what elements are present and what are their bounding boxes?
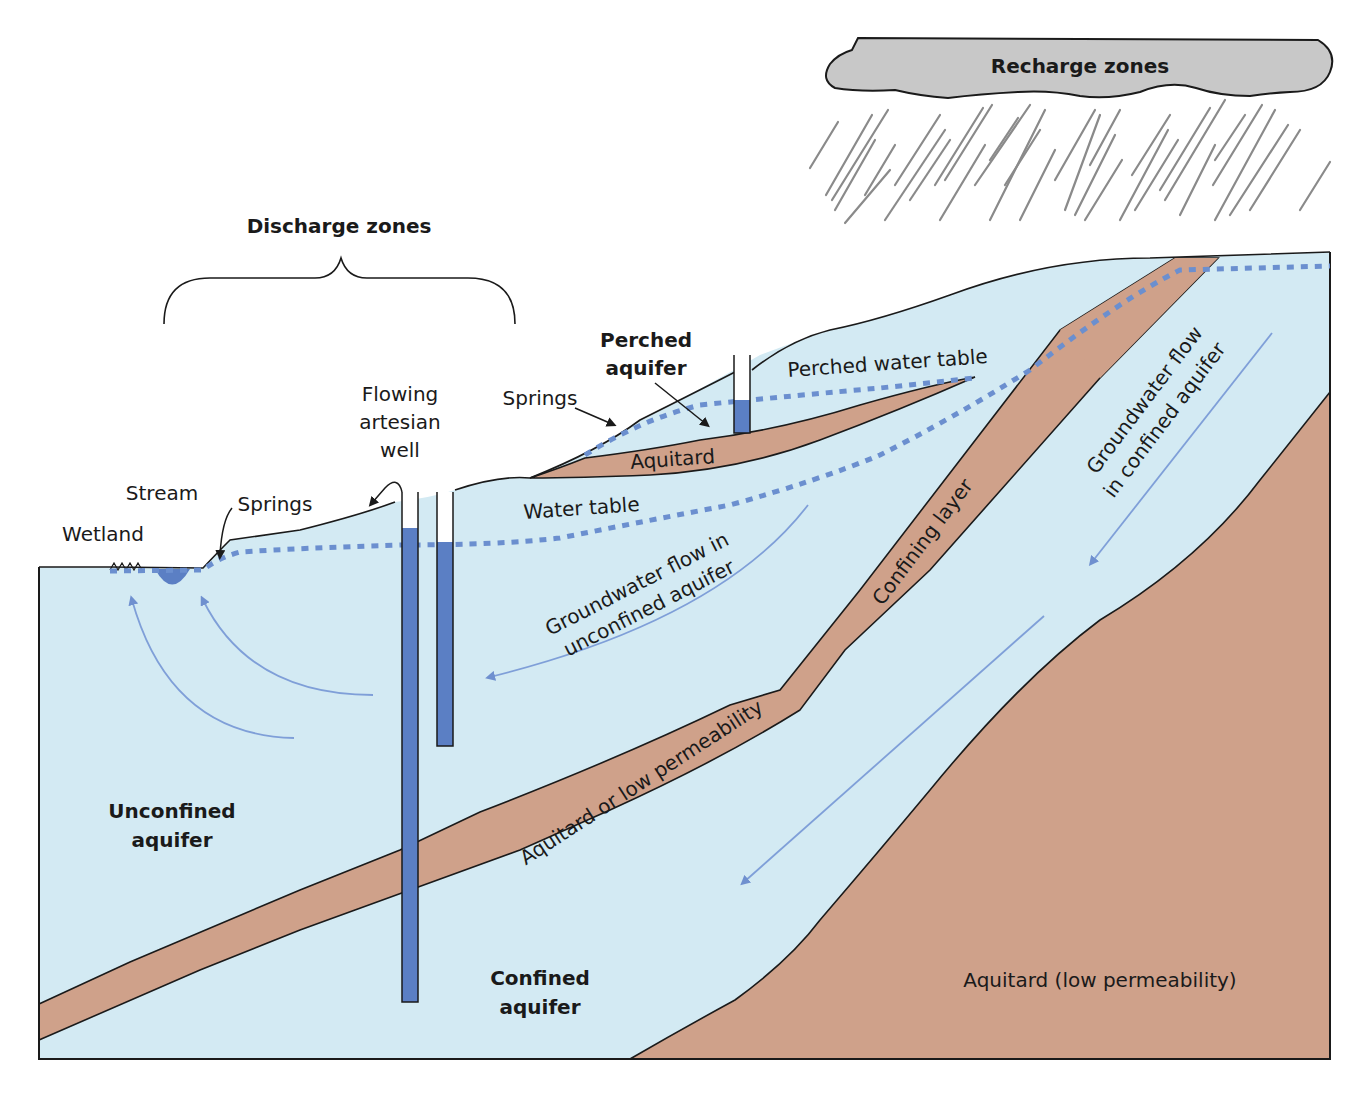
flowing-well-label-2: artesian — [359, 410, 441, 434]
wetland-label: Wetland — [62, 522, 144, 546]
outflow-arrow-icon — [372, 482, 402, 503]
recharge-zones-label: Recharge zones — [991, 54, 1169, 78]
rain-icon — [810, 100, 1330, 223]
flowing-well-label-1: Flowing — [362, 382, 439, 406]
perched-aquifer-label-2: aquifer — [605, 356, 686, 380]
aquitard-bottom-label: Aquitard (low permeability) — [963, 968, 1236, 992]
discharge-zones-label: Discharge zones — [247, 214, 432, 238]
perched-well — [734, 355, 750, 433]
confined-aquifer-label-1: Confined — [490, 966, 590, 990]
recharge-cloud: Recharge zones — [826, 38, 1332, 98]
flowing-well-label-3: well — [380, 438, 420, 462]
unconfined-aquifer-label-1: Unconfined — [108, 799, 235, 823]
stream-label: Stream — [126, 481, 198, 505]
flowing-artesian-well — [402, 492, 418, 1002]
confined-aquifer-label-2: aquifer — [499, 995, 580, 1019]
groundwater-diagram: Recharge zones — [0, 0, 1362, 1099]
perched-aquifer-label-1: Perched — [600, 328, 692, 352]
springs-right-arrow-icon — [575, 408, 612, 424]
springs-right-label: Springs — [503, 386, 578, 410]
unconfined-aquifer-label-2: aquifer — [131, 828, 212, 852]
springs-left-label: Springs — [238, 492, 313, 516]
discharge-brace — [164, 258, 515, 324]
shallow-well — [437, 492, 453, 746]
